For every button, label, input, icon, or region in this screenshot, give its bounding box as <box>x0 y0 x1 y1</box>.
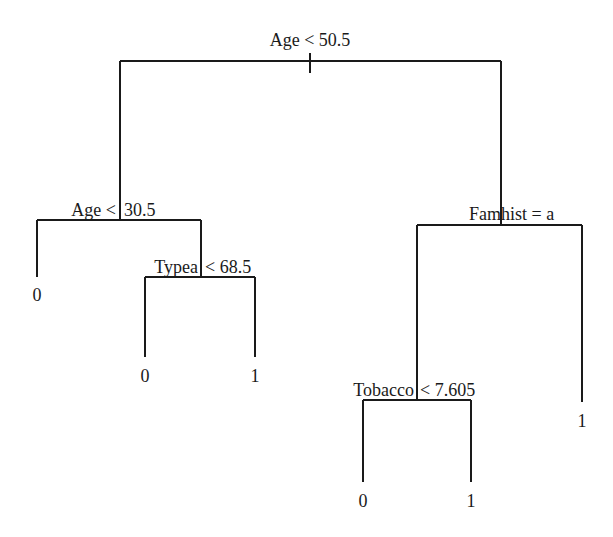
tobacco-label-right: < 7.605 <box>420 380 475 400</box>
node-age-30-5: Age < 30.5 0 <box>33 200 202 305</box>
typea-label-left: Typea <box>154 257 198 277</box>
root-split-label: Age < 50.5 <box>270 30 351 50</box>
leaf-label: 0 <box>33 285 42 305</box>
famhist-label-right: hist = a <box>501 204 554 224</box>
leaf-label: 0 <box>359 491 368 511</box>
leaf-label: 1 <box>467 491 476 511</box>
age-30-5-label-left: Age < <box>71 200 116 220</box>
leaf-label: 0 <box>141 366 150 386</box>
famhist-label-left: Fam <box>469 204 501 224</box>
node-tobacco: Tobacco < 7.605 0 1 <box>353 380 475 511</box>
age-30-5-label-right: 30.5 <box>124 200 156 220</box>
leaf-label: 1 <box>251 366 260 386</box>
tobacco-label-left: Tobacco <box>353 380 414 400</box>
typea-label-right: < 68.5 <box>205 257 251 277</box>
node-root: Age < 50.5 <box>120 30 501 225</box>
decision-tree-diagram: Age < 50.5 Age < 30.5 0 Typea < 68.5 0 1… <box>0 0 613 537</box>
leaf-label: 1 <box>578 411 587 431</box>
node-typea: Typea < 68.5 0 1 <box>141 257 260 386</box>
